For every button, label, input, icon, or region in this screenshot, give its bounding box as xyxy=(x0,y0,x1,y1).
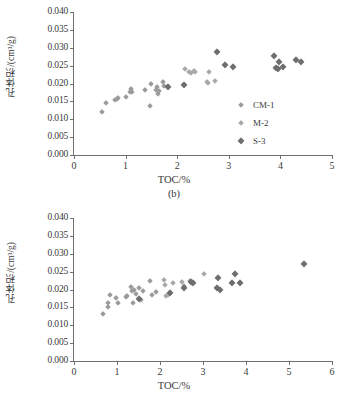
data-point xyxy=(115,300,121,306)
x-tick-label-c: 6 xyxy=(330,367,335,377)
y-tick-label-c: 0.025 xyxy=(48,267,68,277)
x-tick-label-b: 4 xyxy=(278,161,283,171)
x-tick-b xyxy=(126,155,127,159)
data-point xyxy=(105,304,111,310)
panel-c: 孔体积/(cm³/g) 0.0000.0050.0100.0150.0200.0… xyxy=(0,204,348,408)
y-axis-title-c: 孔体积/(cm³/g) xyxy=(4,242,18,303)
data-point xyxy=(271,52,278,59)
x-tick-c xyxy=(332,361,333,365)
y-tick-label-c: 0.000 xyxy=(48,356,68,366)
data-point xyxy=(103,100,109,106)
y-tick-c xyxy=(70,218,74,219)
x-tick-c xyxy=(74,361,75,365)
x-axis-title-c: TOC/% xyxy=(0,380,348,391)
data-point xyxy=(206,69,212,75)
data-point xyxy=(231,270,238,277)
x-tick-label-c: 1 xyxy=(115,367,120,377)
panel-caption-b: (b) xyxy=(0,188,348,199)
y-tick-label-b: 0.035 xyxy=(48,25,68,35)
y-tick-b xyxy=(70,119,74,120)
figure-container: 孔体积/(cm³/g) 0.0000.0050.0100.0150.0200.0… xyxy=(0,0,348,408)
x-tick-b xyxy=(332,155,333,159)
x-tick-b xyxy=(74,155,75,159)
data-point xyxy=(201,271,207,277)
y-tick-label-c: 0.040 xyxy=(48,213,68,223)
data-point xyxy=(123,94,129,100)
data-point xyxy=(297,58,304,65)
x-tick-c xyxy=(160,361,161,365)
y-tick-label-c: 0.035 xyxy=(48,231,68,241)
data-point xyxy=(221,61,228,68)
x-tick-b xyxy=(229,155,230,159)
y-tick-label-c: 0.030 xyxy=(48,249,68,259)
x-tick-label-b: 3 xyxy=(226,161,231,171)
y-tick-b xyxy=(70,30,74,31)
x-tick-c xyxy=(117,361,118,365)
x-tick-label-b: 1 xyxy=(123,161,128,171)
y-tick-b xyxy=(70,137,74,138)
x-tick-label-c: 4 xyxy=(244,367,249,377)
data-point xyxy=(217,286,224,293)
y-tick-c xyxy=(70,290,74,291)
x-tick-label-b: 2 xyxy=(175,161,180,171)
y-tick-b xyxy=(70,101,74,102)
y-tick-c xyxy=(70,343,74,344)
y-tick-label-b: 0.010 xyxy=(48,115,68,125)
y-axis-title-b: 孔体积/(cm³/g) xyxy=(4,36,18,97)
data-point xyxy=(147,278,153,284)
data-point xyxy=(162,282,168,288)
x-tick-label-c: 3 xyxy=(201,367,206,377)
plot-frame-b: 0.0000.0050.0100.0150.0200.0250.0300.035… xyxy=(73,12,332,156)
data-point xyxy=(229,64,236,71)
x-axis-title-b: TOC/% xyxy=(0,174,348,185)
data-point xyxy=(215,274,222,281)
legend-item-cm-1[interactable]: CM-1 xyxy=(236,96,275,114)
legend-item-m-2[interactable]: M-2 xyxy=(236,114,275,132)
data-point xyxy=(192,69,198,75)
x-tick-label-b: 0 xyxy=(72,161,77,171)
legend-b: CM-1M-2S-3 xyxy=(236,96,275,150)
data-point xyxy=(170,280,176,286)
data-point xyxy=(99,109,105,115)
data-point xyxy=(212,78,218,84)
y-tick-label-b: 0.005 xyxy=(48,132,68,142)
y-tick-label-c: 0.015 xyxy=(48,303,68,313)
legend-marker-icon xyxy=(236,118,246,128)
y-tick-label-b: 0.030 xyxy=(48,43,68,53)
data-point xyxy=(236,279,243,286)
y-tick-b xyxy=(70,84,74,85)
y-tick-label-c: 0.010 xyxy=(48,321,68,331)
legend-item-s-3[interactable]: S-3 xyxy=(236,132,275,150)
x-tick-label-b: 5 xyxy=(330,161,335,171)
y-tick-label-b: 0.015 xyxy=(48,97,68,107)
data-point xyxy=(124,293,130,299)
y-tick-c xyxy=(70,272,74,273)
data-point xyxy=(214,48,221,55)
legend-marker-icon xyxy=(236,136,246,146)
y-tick-b xyxy=(70,12,74,13)
data-point xyxy=(300,260,307,267)
y-tick-b xyxy=(70,66,74,67)
x-tick-c xyxy=(246,361,247,365)
y-tick-label-c: 0.005 xyxy=(48,338,68,348)
y-tick-label-b: 0.020 xyxy=(48,79,68,89)
y-tick-label-b: 0.000 xyxy=(48,150,68,160)
y-tick-label-b: 0.025 xyxy=(48,61,68,71)
data-point xyxy=(142,87,148,93)
y-tick-b xyxy=(70,48,74,49)
legend-label: CM-1 xyxy=(253,101,275,110)
y-tick-c xyxy=(70,325,74,326)
y-tick-c xyxy=(70,254,74,255)
data-point xyxy=(205,80,211,86)
data-point xyxy=(130,300,136,306)
plot-area-b xyxy=(74,12,332,155)
data-point xyxy=(189,280,196,287)
panel-b: 孔体积/(cm³/g) 0.0000.0050.0100.0150.0200.0… xyxy=(0,0,348,204)
x-tick-c xyxy=(289,361,290,365)
legend-label: S-3 xyxy=(253,137,266,146)
data-point xyxy=(229,280,236,287)
x-tick-label-c: 5 xyxy=(287,367,292,377)
y-tick-label-c: 0.020 xyxy=(48,285,68,295)
x-tick-label-c: 2 xyxy=(158,367,163,377)
data-point xyxy=(100,311,106,317)
